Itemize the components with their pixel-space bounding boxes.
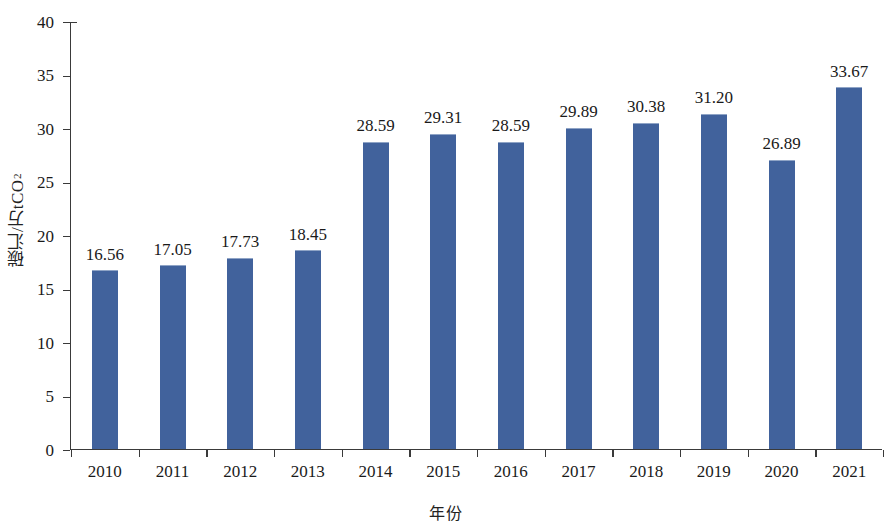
x-axis-tick: [409, 450, 410, 457]
x-axis-tick-label: 2013: [291, 462, 325, 482]
x-axis-tick: [680, 450, 681, 457]
bar: [363, 142, 389, 449]
bar: [566, 128, 592, 449]
y-axis-tick: 20: [63, 236, 70, 237]
x-axis-tick-label: 2020: [765, 462, 799, 482]
y-axis-tick: 5: [63, 397, 70, 398]
x-axis-tick-label: 2016: [494, 462, 528, 482]
bar-value-label: 17.05: [153, 240, 191, 260]
x-axis-tick-label: 2011: [156, 462, 189, 482]
y-axis-tick: 15: [63, 290, 70, 291]
x-axis-tick: [477, 450, 478, 457]
y-axis-tick: 25: [63, 183, 70, 184]
y-axis-tick-label: 0: [46, 441, 55, 461]
y-axis-tick-label: 25: [37, 173, 54, 193]
y-axis-tick: 0: [63, 450, 70, 451]
y-axis-top-cap: [70, 22, 77, 23]
y-axis-title: 碳汇/万tCO2: [2, 125, 32, 315]
bar-value-label: 30.38: [627, 97, 665, 117]
x-axis-tick: [139, 450, 140, 457]
x-axis-tick-label: 2014: [359, 462, 393, 482]
bar: [227, 258, 253, 449]
y-axis-tick-label: 15: [37, 280, 54, 300]
bar: [633, 123, 659, 449]
bar-value-label: 28.59: [356, 116, 394, 136]
y-axis-title-subscript: 2: [11, 173, 23, 179]
x-axis-tick: [545, 450, 546, 457]
x-axis-line: [70, 449, 882, 450]
bar-value-label: 31.20: [695, 88, 733, 108]
y-axis-tick: 35: [63, 76, 70, 77]
bar: [430, 134, 456, 449]
y-axis-tick-label: 35: [37, 66, 54, 86]
x-axis-tick-label: 2019: [697, 462, 731, 482]
x-axis-tick: [71, 450, 72, 457]
x-axis-tick-label: 2021: [832, 462, 866, 482]
bar: [701, 114, 727, 449]
y-axis-tick-label: 10: [37, 334, 54, 354]
bar-value-label: 29.31: [424, 108, 462, 128]
x-axis-tick-label: 2017: [562, 462, 596, 482]
bar: [295, 250, 321, 448]
x-axis-tick-label: 2015: [426, 462, 460, 482]
y-axis-line: [70, 22, 71, 450]
y-axis-tick-label: 40: [37, 13, 54, 33]
bar-value-label: 33.67: [830, 62, 868, 82]
x-axis-tick: [206, 450, 207, 457]
x-axis-tick-label: 2010: [88, 462, 122, 482]
y-axis-tick-label: 20: [37, 227, 54, 247]
x-axis-tick: [612, 450, 613, 457]
x-axis-tick-label: 2018: [629, 462, 663, 482]
bar: [498, 142, 524, 449]
y-axis-tick: 10: [63, 343, 70, 344]
bar-value-label: 16.56: [86, 245, 124, 265]
y-axis-tick-label: 5: [46, 387, 55, 407]
bar-value-label: 29.89: [559, 102, 597, 122]
bar-chart: 碳汇/万tCO2 0510152025303540 20102011201220…: [0, 0, 891, 529]
bar: [836, 87, 862, 448]
bar-value-label: 28.59: [492, 116, 530, 136]
y-axis-tick: 30: [63, 129, 70, 130]
y-axis-title-text: 碳汇/万tCO: [5, 179, 30, 267]
bar-value-label: 17.73: [221, 232, 259, 252]
bar: [769, 160, 795, 449]
bar: [92, 270, 118, 448]
x-axis-tick: [883, 450, 884, 457]
x-axis-tick: [748, 450, 749, 457]
y-axis-tick: 40: [63, 22, 70, 23]
bar-value-label: 26.89: [762, 134, 800, 154]
x-axis-title: 年份: [0, 500, 891, 524]
x-axis-tick: [274, 450, 275, 457]
x-axis-tick-label: 2012: [223, 462, 257, 482]
bar: [160, 265, 186, 448]
plot-area: 0510152025303540: [70, 22, 882, 450]
x-axis-tick: [815, 450, 816, 457]
bar-value-label: 18.45: [289, 225, 327, 245]
x-axis-tick: [342, 450, 343, 457]
y-axis-tick-label: 30: [37, 120, 54, 140]
